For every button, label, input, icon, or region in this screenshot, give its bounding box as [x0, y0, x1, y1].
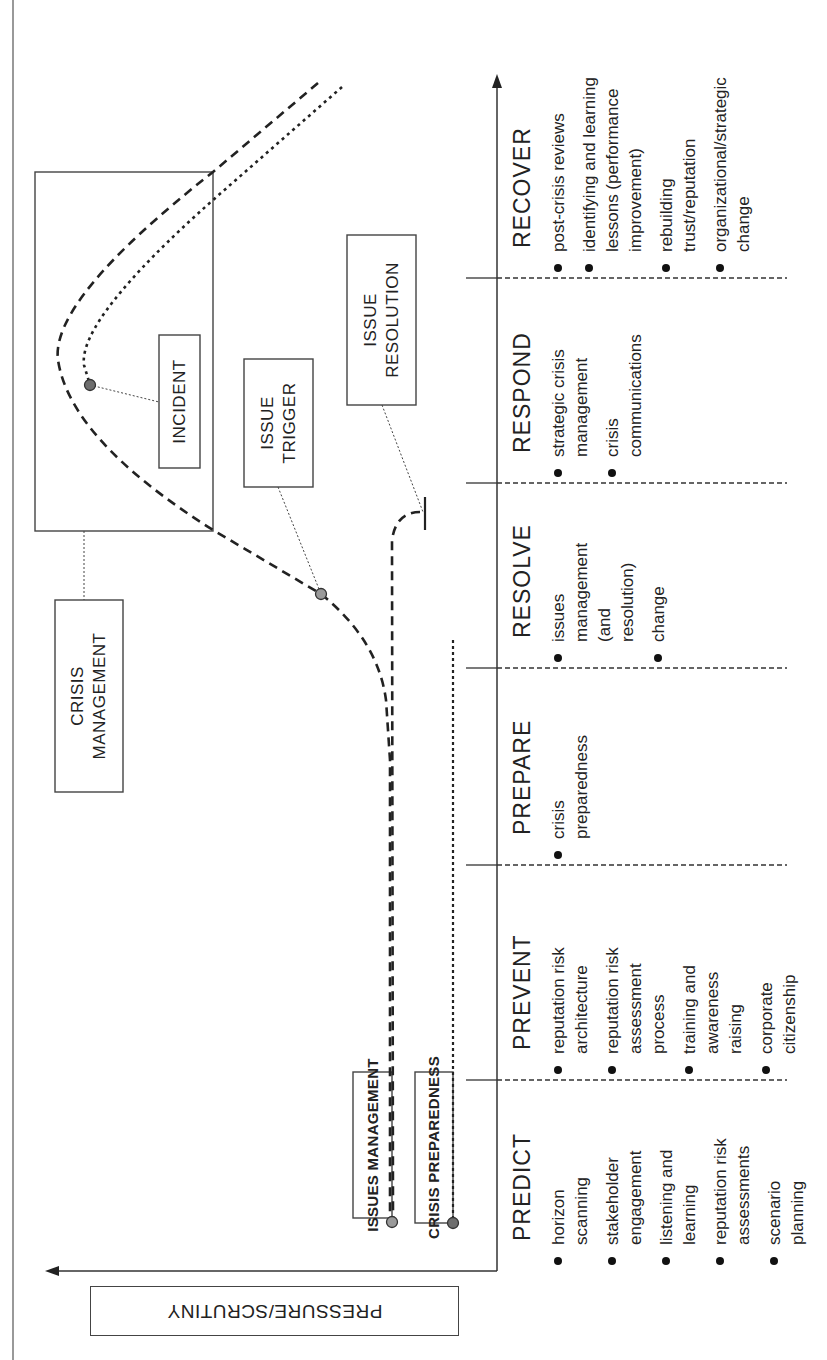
phase-respond: RESPOND strategic crisis management cris…: [505, 278, 647, 483]
bullet-icon: [770, 1257, 778, 1265]
bullet-icon: [608, 469, 616, 477]
incident-dot: [85, 380, 96, 391]
incident-label: INCIDENT: [159, 335, 200, 468]
pressure-scrutiny-box: PRESSURE/SCRUTINY: [90, 1286, 459, 1336]
issue-resolution-text: ISSUE RESOLUTION: [360, 262, 404, 378]
list-item: listening and learning: [655, 1080, 701, 1267]
bullet-icon: [554, 851, 562, 859]
issues-management-label: ISSUES MANAGEMENT: [353, 1072, 392, 1218]
bullet-icon: [662, 1257, 670, 1265]
phase-recover: RECOVER post-crisis reviews identifying …: [505, 3, 755, 278]
issue-trigger-label: ISSUE TRIGGER: [244, 359, 313, 487]
list-item: crisis preparedness: [547, 668, 593, 861]
phase-resolve: RESOLVE issues management (and resolutio…: [505, 483, 670, 668]
list-item: scenario planning: [763, 1080, 809, 1267]
crisis-preparedness-label: CRISIS PREPAREDNESS: [415, 1072, 453, 1223]
issue-resolution-connector: [382, 405, 423, 512]
phase-items: crisis preparedness: [547, 668, 593, 861]
list-item: reputation risk assessments: [709, 1080, 755, 1267]
list-item: identifying and learning lessons (perfor…: [578, 3, 647, 274]
phase-items: post-crisis reviews identifying and lear…: [547, 3, 755, 274]
issues-management-text: ISSUES MANAGEMENT: [362, 1058, 384, 1231]
list-item: crisis communications: [601, 278, 647, 479]
bullet-icon: [654, 654, 662, 662]
crisis-preparedness-text: CRISIS PREPAREDNESS: [423, 1056, 445, 1239]
list-item: stakeholder engagement: [601, 1080, 647, 1267]
phase-heading: RESOLVE: [505, 483, 539, 664]
phase-items: issues management (and resolution) chang…: [547, 483, 670, 664]
bullet-icon: [762, 1066, 770, 1074]
list-item: issues management (and resolution): [547, 483, 639, 664]
bullet-icon: [554, 654, 562, 662]
phase-items: horizon scanning stakeholder engagement …: [547, 1080, 809, 1267]
phase-heading: PREPARE: [505, 668, 539, 861]
phase-items: reputation risk architecture reputation …: [547, 865, 801, 1076]
issues-management-dot: [387, 1217, 398, 1228]
list-item: change: [647, 483, 670, 664]
bullet-icon: [585, 264, 593, 272]
bullet-icon: [662, 264, 670, 272]
crisis-management-label: CRISIS MANAGEMENT: [55, 600, 123, 792]
list-item: corporate citizenship: [755, 865, 801, 1076]
bullet-icon: [554, 1066, 562, 1074]
list-item: rebuilding trust/reputation: [655, 3, 701, 274]
markers: [85, 380, 459, 1229]
list-item: strategic crisis management: [547, 278, 593, 479]
incident-text: INCIDENT: [169, 359, 191, 443]
bullet-icon: [716, 1257, 724, 1265]
pressure-scrutiny-label: PRESSURE/SCRUTINY: [167, 1300, 382, 1322]
bullet-icon: [554, 469, 562, 477]
list-item: reputation risk assessment process: [601, 865, 670, 1076]
list-item: organizational/strategic change: [709, 3, 755, 274]
issue-trigger-text: ISSUE TRIGGER: [257, 383, 301, 464]
list-item: post-crisis reviews: [547, 3, 570, 274]
phase-heading: RECOVER: [505, 3, 539, 274]
list-item: training and awareness raising: [678, 865, 747, 1076]
bullet-icon: [554, 1257, 562, 1265]
issue-resolution-label: ISSUE RESOLUTION: [347, 235, 416, 405]
list-item: reputation risk architecture: [547, 865, 593, 1076]
phase-heading: RESPOND: [505, 278, 539, 479]
phase-prevent: PREVENT reputation risk architecture rep…: [505, 865, 801, 1080]
crisis-management-text: CRISIS MANAGEMENT: [67, 633, 111, 760]
bullet-icon: [608, 1066, 616, 1074]
bullet-icon: [716, 264, 724, 272]
time-axis-arrow-icon: [492, 74, 502, 88]
bullet-icon: [554, 264, 562, 272]
pressure-axis-arrow-icon: [45, 1266, 59, 1276]
bullet-icon: [608, 1257, 616, 1265]
phase-predict: PREDICT horizon scanning stakeholder eng…: [505, 1080, 809, 1271]
issue-trigger-dot: [316, 589, 327, 600]
issue-trigger-connector: [278, 487, 321, 594]
phase-heading: PREVENT: [505, 865, 539, 1076]
incident-connector: [90, 385, 159, 402]
bullet-icon: [685, 1066, 693, 1074]
phase-prepare: PREPARE crisis preparedness: [505, 668, 593, 865]
phase-heading: PREDICT: [505, 1080, 539, 1267]
list-item: horizon scanning: [547, 1080, 593, 1267]
phase-items: strategic crisis management crisis commu…: [547, 278, 647, 479]
